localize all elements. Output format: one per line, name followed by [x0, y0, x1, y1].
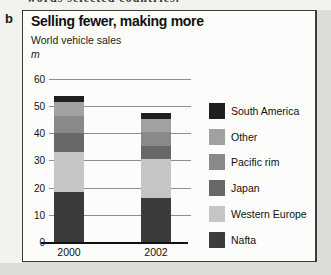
- cropped-text-line: words selected countries.: [27, 0, 180, 6]
- legend-swatch: [209, 180, 225, 196]
- plot-area: 010203040506020002002South AmericaOtherP…: [23, 11, 315, 261]
- legend-swatch: [209, 129, 225, 145]
- x-axis-line: [41, 242, 188, 244]
- exercise-label-b: b: [5, 11, 13, 26]
- legend-label: Nafta: [231, 234, 256, 246]
- y-tick-label: 50: [23, 101, 45, 112]
- y-tick-label: 10: [23, 210, 45, 221]
- bar-segment-2000-other: [54, 102, 84, 116]
- legend-swatch: [209, 206, 225, 222]
- legend-label: Other: [231, 131, 257, 143]
- bar-segment-2002-western-europe: [141, 159, 171, 198]
- bar-segment-2002-pacific-rim: [141, 132, 171, 146]
- legend-swatch: [209, 232, 225, 248]
- x-axis-label-2000: 2000: [49, 246, 89, 258]
- bar-segment-2002-south-america: [141, 113, 171, 118]
- legend-label: South America: [231, 105, 299, 117]
- bar-segment-2002-japan: [141, 146, 171, 160]
- chart-panel: Selling fewer, making more World vehicle…: [22, 10, 317, 262]
- legend-swatch: [209, 154, 225, 170]
- bar-segment-2000-japan: [54, 133, 84, 152]
- bar-segment-2002-nafta: [141, 198, 171, 241]
- legend-label: Pacific rim: [231, 156, 279, 168]
- x-axis-label-2002: 2002: [136, 246, 176, 258]
- bar-segment-2000-south-america: [54, 96, 84, 103]
- legend-swatch: [209, 103, 225, 119]
- page-top-margin: words selected countries.: [0, 0, 331, 10]
- bar-segment-2002-other: [141, 119, 171, 133]
- page-left-margin: [0, 0, 22, 263]
- gridline-y60: [49, 79, 191, 80]
- legend-label: Western Europe: [231, 208, 307, 220]
- y-tick-label: 20: [23, 183, 45, 194]
- bar-segment-2000-pacific-rim: [54, 116, 84, 134]
- y-tick-label: 40: [23, 128, 45, 139]
- y-tick-label: 60: [23, 74, 45, 85]
- y-tick-label: 30: [23, 155, 45, 166]
- bar-segment-2000-nafta: [54, 192, 84, 242]
- bar-segment-2000-western-europe: [54, 152, 84, 191]
- legend-label: Japan: [231, 182, 260, 194]
